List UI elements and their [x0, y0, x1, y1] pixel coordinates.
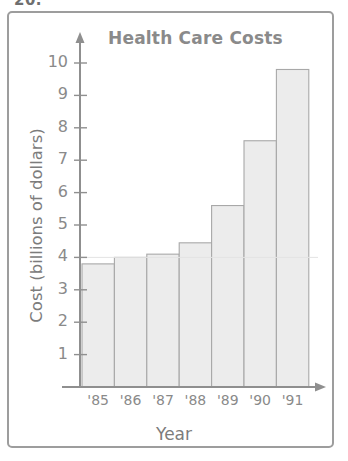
y-tick-label: 8	[42, 117, 68, 136]
y-axis-tick-labels: 12345678910	[42, 0, 68, 461]
y-tick-label: 5	[42, 214, 68, 233]
y-tick-label: 10	[42, 52, 68, 71]
y-tick-label: 7	[42, 149, 68, 168]
bar-86	[114, 257, 146, 387]
y-axis-arrow	[76, 32, 85, 43]
bar-90	[244, 141, 276, 387]
chart-title: Health Care Costs	[108, 28, 283, 48]
y-tick-label: 1	[42, 344, 68, 363]
bar-91	[276, 69, 308, 387]
y-tick-label: 6	[42, 182, 68, 201]
bars-group	[82, 69, 309, 387]
y-tick-label: 2	[42, 311, 68, 330]
bar-chart: Health Care Costs 12345678910 '85'86'87'…	[0, 0, 348, 461]
y-tick-label: 4	[42, 246, 68, 265]
x-axis-arrow	[315, 383, 326, 392]
bar-87	[147, 254, 179, 387]
x-tick-label-91: '91	[273, 392, 313, 408]
y-tick-label: 3	[42, 279, 68, 298]
bar-85	[82, 264, 114, 387]
bar-88	[179, 243, 211, 387]
y-axis-title: Cost (billions of dollars)	[27, 116, 46, 336]
y-tick-label: 9	[42, 84, 68, 103]
x-axis-title: Year	[0, 424, 348, 444]
bar-89	[212, 206, 244, 387]
